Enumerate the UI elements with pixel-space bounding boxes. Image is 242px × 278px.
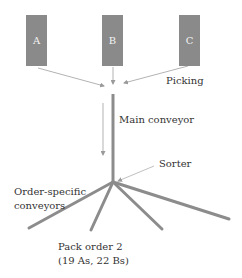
bin-a: A xyxy=(26,15,47,66)
sorter-leader xyxy=(118,166,154,181)
pack-order-label-line1: Pack order 2 xyxy=(58,240,123,253)
pack-order-label-line2: (19 As, 22 Bs) xyxy=(58,254,129,267)
order-specific-label-line1: Order-specific xyxy=(14,185,86,198)
main-conveyor-label: Main conveyor xyxy=(119,113,194,126)
order-specific-label-line2: conveyors xyxy=(14,199,65,212)
bin-b-label: B xyxy=(109,35,116,46)
diagram-canvas: A B C Picking Main conveyor Sorter Order… xyxy=(0,0,242,278)
bin-c-label: C xyxy=(186,35,194,46)
picking-label: Picking xyxy=(166,74,204,87)
bin-b: B xyxy=(102,15,123,66)
picking-arrow-a xyxy=(38,68,104,86)
sorter-label: Sorter xyxy=(159,157,191,170)
bin-a-label: A xyxy=(33,35,40,46)
bin-c: C xyxy=(179,15,200,66)
